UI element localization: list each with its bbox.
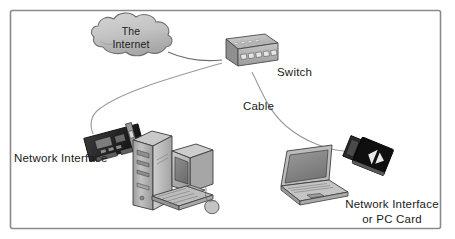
- network-diagram-figure: The Internet: [0, 0, 455, 239]
- pc-card-label-line1: Network Interface: [345, 198, 439, 210]
- pc-card: [342, 133, 394, 176]
- cloud-label-line2: Internet: [112, 38, 149, 50]
- diagram-border: [11, 11, 441, 229]
- switch-label: Switch: [277, 66, 312, 78]
- pc-card-label-line2: or PC Card: [362, 213, 422, 225]
- network-interface-label: Network Interface: [14, 152, 108, 164]
- crt-monitor: [172, 144, 213, 195]
- network-switch: [226, 34, 278, 66]
- mouse: [205, 186, 219, 214]
- cable-label: Cable: [243, 100, 274, 112]
- cloud-label-line1: The: [122, 25, 141, 37]
- cable-cloud-to-switch: [168, 52, 222, 61]
- internet-cloud: The Internet: [91, 13, 171, 56]
- laptop: [281, 145, 348, 205]
- cable-switch-to-nic: [91, 63, 222, 134]
